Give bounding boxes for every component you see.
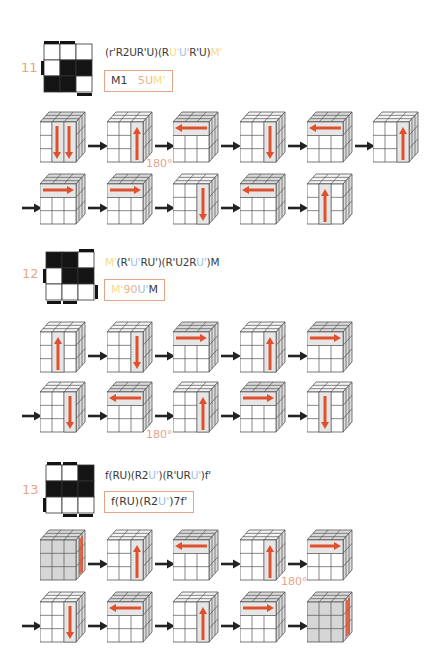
cube-step-right-top-icon [240,590,288,642]
algorithm-formula: M'(R'U'RU')(R'U2RU')M [105,256,219,268]
arrow-right-icon [288,616,308,626]
cube-step-right-top-icon [40,172,88,224]
cube-step-up-right-icon [173,380,221,432]
cube-step-down-right-icon [240,110,288,162]
oll-pattern-diagram [46,252,94,300]
cube-step-down-right-icon [40,380,88,432]
cube-step-up-right-icon [173,590,221,642]
arrow-right-icon [221,346,241,356]
shorthand-segment: U' [138,283,149,296]
cube-step-down-right-icon [173,172,221,224]
case-number: 12 [22,266,39,281]
algorithm-shorthand-box: M'90U'M [104,279,165,301]
formula-segment: M' [105,256,117,268]
formula-segment: (r'R2UR'U)(R [105,46,169,58]
cube-step-left-top-icon [307,110,355,162]
arrow-right-icon [288,198,308,208]
formula-segment: RU' [140,256,157,268]
formula-segment: U' [196,256,206,268]
arrow-right-icon [88,136,108,146]
arrow-right-icon [155,346,175,356]
shorthand-segment: )7f' [169,495,187,508]
arrow-right-icon [155,406,175,416]
arrow-right-icon [88,346,108,356]
shorthand-segment: M1 [111,74,128,87]
formula-segment: )(R'U2R [158,256,197,268]
cube-step-up-right-icon [107,528,155,580]
arrow-right-icon [221,198,241,208]
shorthand-segment: M' [153,74,166,87]
arrow-right-icon [288,406,308,416]
arrow-right-icon [355,136,375,146]
arrow-right-icon [221,406,241,416]
algorithm-shorthand-box: M1 5UM' [104,70,173,92]
cube-step-left-top-icon [173,110,221,162]
arrow-right-icon [288,136,308,146]
algorithm-formula: (r'R2UR'U)(RU'U'R'U)M' [105,46,222,58]
formula-segment: U' [169,46,179,58]
formula-segment: )f' [201,469,211,481]
cube-step-double-down-center-icon [40,110,88,162]
arrow-right-icon [288,554,308,564]
arrow-right-icon [221,136,241,146]
arrow-right-icon [22,198,42,208]
formula-segment: U' [148,469,158,481]
shorthand-segment: 90 [124,283,138,296]
cube-step-left-top-icon [240,172,288,224]
cube-step-up-right-icon [107,110,155,162]
formula-segment: (R' [117,256,131,268]
cube-step-down-center-icon [307,380,355,432]
arrow-right-icon [88,554,108,564]
algorithm-shorthand-box: f(RU)(R2U')7f' [104,491,194,513]
cube-step-right-top-icon [240,380,288,432]
cube-step-down-right-icon [40,590,88,642]
arrow-right-icon [221,616,241,626]
formula-segment: U' [179,46,189,58]
cube-step-left-top-icon [173,528,221,580]
cube-step-left-top-icon [107,380,155,432]
arrow-right-icon [221,554,241,564]
cube-step-left-top-icon [107,590,155,642]
arrow-right-icon [155,616,175,626]
arrow-right-icon [155,198,175,208]
shorthand-segment: M' [111,283,124,296]
shorthand-segment: 5U [138,74,153,87]
case-number: 13 [22,482,39,497]
cube-step-up-center-icon [307,172,355,224]
formula-segment: U' [130,256,140,268]
oll-pattern-diagram [44,44,92,92]
arrow-right-icon [22,616,42,626]
cube-step-up-right-icon [373,110,421,162]
cube-step-right-top-icon [173,320,221,372]
formula-segment: f(RU)(R2 [105,469,148,481]
cube-step-up-right-icon [240,528,288,580]
formula-segment: )M [207,256,220,268]
shorthand-segment: f(RU)(R2 [111,495,158,508]
algorithm-formula: f(RU)(R2U')(R'URU')f' [105,469,211,481]
formula-segment: U' [191,469,201,481]
case-number: 11 [21,60,38,75]
cube-step-gray-side-icon [307,590,355,642]
cube-step-down-right-icon [107,320,155,372]
formula-segment: M' [210,46,222,58]
arrow-right-icon [288,346,308,356]
arrow-right-icon [155,554,175,564]
cube-step-gray-side-icon [40,528,88,580]
arrow-right-icon [88,406,108,416]
oll-pattern-diagram [46,465,94,513]
formula-segment: R'U) [189,46,210,58]
cube-step-right-top-icon [107,172,155,224]
arrow-right-icon [88,198,108,208]
shorthand-segment: U' [158,495,169,508]
cube-step-up-center-icon [40,320,88,372]
shorthand-segment [128,74,139,87]
shorthand-segment: M [149,283,159,296]
cube-step-right-top-icon [307,320,355,372]
arrow-right-icon [88,616,108,626]
formula-segment: )(R'UR [159,469,191,481]
cube-step-up-right-icon [240,320,288,372]
arrow-right-icon [155,136,175,146]
cube-step-right-top-icon [307,528,355,580]
arrow-right-icon [22,406,42,416]
